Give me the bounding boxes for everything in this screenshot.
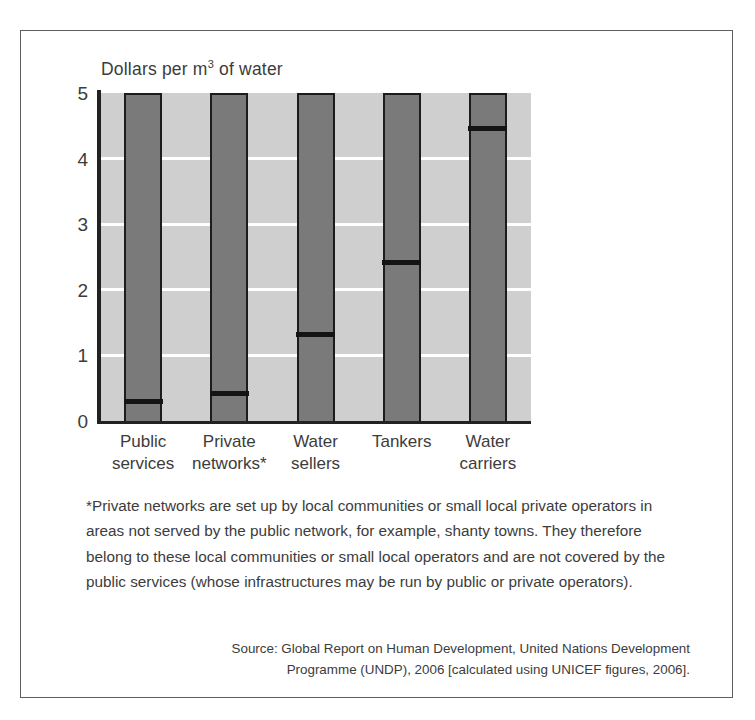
source-note: Source: Global Report on Human Developme… <box>220 639 690 681</box>
bar-value-marker <box>382 260 421 265</box>
bar-value-marker <box>210 391 249 396</box>
source-line-1: Source: Global Report on Human Developme… <box>220 639 690 660</box>
x-axis-label: Privatenetworks* <box>192 431 267 476</box>
x-axis-label-line: Water <box>291 431 340 453</box>
bar <box>124 93 162 421</box>
bar-value-marker <box>124 399 163 404</box>
x-axis-label-line: networks* <box>192 453 267 475</box>
x-axis-label: Watercarriers <box>460 431 517 476</box>
chart-title-main: Dollars per m <box>101 59 208 79</box>
y-axis-tick-label: 0 <box>77 412 88 431</box>
y-axis-tick-label: 4 <box>77 149 88 168</box>
y-axis-tick-label: 2 <box>77 280 88 299</box>
x-axis-label-line: Private <box>192 431 267 453</box>
x-axis-label: Tankers <box>372 431 432 453</box>
x-axis-label-line: Tankers <box>372 431 432 453</box>
y-axis-tick-label: 3 <box>77 215 88 234</box>
x-axis-label-line: carriers <box>460 453 517 475</box>
x-axis-label-line: Water <box>460 431 517 453</box>
x-axis-label-line: services <box>112 453 174 475</box>
bar-value-marker <box>296 332 335 337</box>
bar-value-marker <box>468 126 507 131</box>
bar <box>469 93 507 421</box>
plot-area: 543210 PublicservicesPrivatenetworks*Wat… <box>100 93 531 421</box>
bar <box>383 93 421 421</box>
figure-frame: Dollars per m3 of water 543210 Publicser… <box>20 30 733 698</box>
chart-title-tail: of water <box>214 59 283 79</box>
y-axis-line <box>97 90 101 424</box>
chart-title: Dollars per m3 of water <box>101 59 283 80</box>
x-axis-label-line: Public <box>112 431 174 453</box>
y-axis-tick-label: 5 <box>77 84 88 103</box>
footnote: *Private networks are set up by local co… <box>86 493 676 595</box>
bar <box>297 93 335 421</box>
y-axis-tick-label: 1 <box>77 346 88 365</box>
x-axis-label: Watersellers <box>291 431 340 476</box>
x-axis-label-line: sellers <box>291 453 340 475</box>
source-line-2: Programme (UNDP), 2006 [calculated using… <box>220 660 690 681</box>
x-axis-label: Publicservices <box>112 431 174 476</box>
x-axis-line <box>97 421 531 425</box>
bar <box>210 93 248 421</box>
